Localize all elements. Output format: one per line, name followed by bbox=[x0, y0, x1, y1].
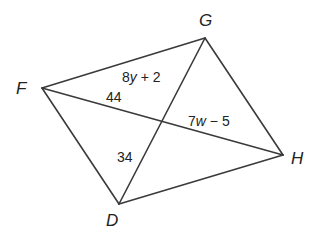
vertex-label-h: H bbox=[291, 149, 304, 168]
segment-label-f-intersection: 44 bbox=[106, 89, 122, 105]
vertex-label-d: D bbox=[106, 211, 118, 230]
vertex-label-g: G bbox=[199, 11, 212, 30]
side-hd bbox=[119, 155, 283, 204]
segment-label-d-intersection: 34 bbox=[117, 149, 133, 165]
segment-label-g-intersection: 8y + 2 bbox=[122, 69, 161, 85]
quadrilateral-diagram: G F H D 8y + 2 44 7w − 5 34 bbox=[0, 0, 323, 234]
vertex-label-f: F bbox=[16, 79, 28, 98]
segment-label-intersection-h: 7w − 5 bbox=[188, 113, 230, 129]
side-gh bbox=[205, 38, 283, 155]
